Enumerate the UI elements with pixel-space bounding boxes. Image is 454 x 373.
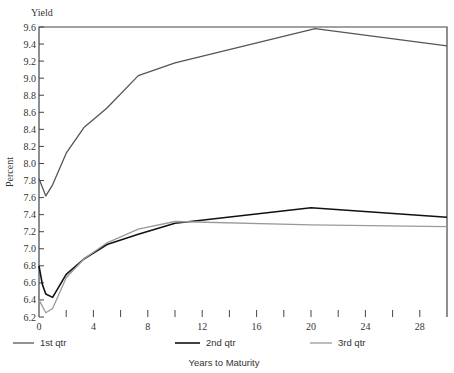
x-tick-label: 12 — [197, 321, 207, 332]
y-tick-label: 6.4 — [24, 294, 37, 305]
x-tick-label: 24 — [360, 321, 370, 332]
legend-label-2nd-qtr: 2nd qtr — [206, 337, 236, 348]
yield-curve-chart: Yield Percent 6.26.46.66.87.07.27.47.67.… — [0, 0, 454, 373]
y-tick-label: 7.4 — [24, 209, 37, 220]
series-lines — [39, 29, 447, 313]
y-tick-label: 8.0 — [24, 158, 37, 169]
legend-label-3rd-qtr: 3rd qtr — [338, 337, 365, 348]
y-tick-label: 8.2 — [24, 141, 37, 152]
y-tick-label: 8.6 — [24, 107, 37, 118]
x-axis-ticks: 0481216202428 — [37, 310, 425, 332]
y-tick-label: 9.0 — [24, 73, 37, 84]
series-line-2nd-qtr — [39, 208, 447, 298]
x-tick-label: 4 — [91, 321, 96, 332]
y-tick-label: 7.8 — [24, 175, 37, 186]
y-axis-top-title: Yield — [31, 7, 53, 18]
y-tick-label: 7.6 — [24, 192, 37, 203]
legend-label-1st-qtr: 1st qtr — [40, 337, 66, 348]
y-tick-label: 8.4 — [24, 124, 37, 135]
y-tick-label: 6.8 — [24, 260, 37, 271]
x-tick-label: 0 — [37, 321, 42, 332]
series-line-3rd-qtr — [39, 222, 447, 313]
series-line-1st-qtr — [39, 29, 447, 196]
x-tick-label: 16 — [252, 321, 262, 332]
x-tick-label: 8 — [145, 321, 150, 332]
x-tick-label: 28 — [415, 321, 425, 332]
y-tick-label: 9.4 — [24, 39, 37, 50]
x-axis-title: Years to Maturity — [189, 357, 260, 368]
y-tick-label: 7.2 — [24, 226, 37, 237]
y-tick-label: 9.2 — [24, 56, 37, 67]
y-tick-label: 7.0 — [24, 243, 37, 254]
y-tick-label: 6.2 — [24, 312, 37, 323]
y-tick-label: 8.8 — [24, 90, 37, 101]
y-tick-label: 6.6 — [24, 277, 37, 288]
plot-frame — [39, 27, 447, 317]
legend: 1st qtr 2nd qtr 3rd qtr — [13, 337, 365, 348]
x-tick-label: 20 — [306, 321, 316, 332]
y-tick-label: 9.6 — [24, 22, 37, 33]
y-axis-title: Percent — [4, 157, 15, 187]
